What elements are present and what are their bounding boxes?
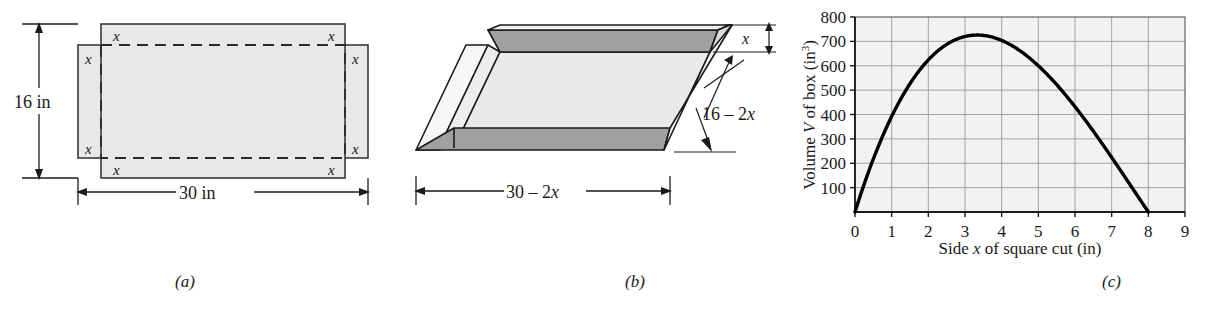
dimension-label-box-height: x: [741, 30, 749, 47]
corner-label-left-bottom: x: [84, 141, 92, 157]
dimension-label-height: 16 in: [14, 92, 51, 112]
corner-label-bottom-left: x: [112, 162, 120, 178]
y-tick-label: 100: [821, 179, 847, 198]
y-tick-label: 600: [821, 57, 847, 76]
box-back-wall-rim: [488, 25, 730, 30]
dimension-label-box-depth: 16 – 2x: [702, 104, 755, 124]
chart-svg: 100200300400500600700800 0123456789 Volu…: [795, 0, 1215, 265]
dimension-label-width: 30 in: [179, 183, 216, 203]
panel-b-open-box: x 16 – 2x 30: [380, 0, 800, 321]
corner-label-top-left: x: [112, 28, 120, 44]
figure-container: x x x x x x x x 16 in: [0, 0, 1215, 321]
x-tick-label: 7: [1107, 222, 1116, 241]
panel-a-flat-sheet: x x x x x x x x 16 in: [0, 0, 400, 321]
x-tick-label: 1: [887, 222, 896, 241]
panel-b-svg: x 16 – 2x 30: [380, 0, 800, 260]
x-tick-label: 0: [851, 222, 860, 241]
x-tick-label: 9: [1181, 222, 1190, 241]
y-tick-label: 200: [821, 154, 847, 173]
caption-c: (c): [1102, 272, 1121, 292]
corner-label-left-top: x: [84, 51, 92, 67]
dimension-label-box-width: 30 – 2x: [506, 182, 559, 202]
x-axis-title: Side x of square cut (in): [939, 239, 1102, 258]
corner-label-top-right: x: [327, 28, 335, 44]
y-tick-label: 700: [821, 32, 847, 51]
y-axis-title: Volume V of box (in3): [799, 40, 819, 190]
y-tick-label: 300: [821, 130, 847, 149]
corner-label-right-bottom: x: [351, 141, 359, 157]
x-tick-label: 8: [1144, 222, 1153, 241]
box-back-wall-inner: [488, 30, 718, 52]
y-tick-labels: 100200300400500600700800: [821, 8, 847, 198]
corner-label-bottom-right: x: [327, 162, 335, 178]
corner-label-right-top: x: [351, 51, 359, 67]
x-tick-label: 2: [924, 222, 933, 241]
panel-a-svg: x x x x x x x x 16 in: [0, 0, 400, 260]
caption-a: (a): [175, 272, 195, 292]
caption-b: (b): [625, 272, 645, 292]
panel-c-volume-chart: 100200300400500600700800 0123456789 Volu…: [795, 0, 1215, 321]
y-tick-label: 500: [821, 81, 847, 100]
y-tick-label: 400: [821, 106, 847, 125]
y-tick-label: 800: [821, 8, 847, 27]
sheet-overlap-fill: [102, 46, 344, 157]
